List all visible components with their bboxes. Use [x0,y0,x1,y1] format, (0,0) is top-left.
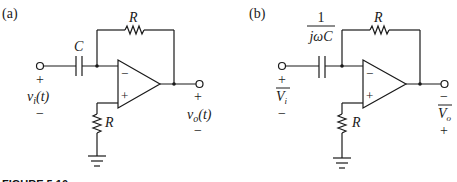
svg-text:1: 1 [318,10,325,25]
impedance-b-label: jωC [307,29,333,44]
svg-text:−: − [366,66,373,81]
svg-text:R: R [104,115,114,130]
input-phasor-b: Vi [276,89,288,106]
svg-text:−: − [36,106,44,121]
svg-text:R: R [373,10,383,25]
feedback-resistor-b [370,26,389,34]
svg-text:+: + [366,88,373,103]
circuit-figure: (a) C R − + R [0,0,457,182]
output-terminal-b [441,81,448,88]
output-terminal-a [196,81,203,88]
capacitor-a [76,56,82,76]
figure-caption: FIGURE 5.10 [2,178,68,182]
svg-text:+: + [121,88,128,103]
panel-b-label: (b) [249,6,266,22]
feedback-resistor-a-label: R [128,10,138,25]
ground-resistor-b [338,114,346,133]
svg-text:−: − [440,89,448,104]
svg-text:+: + [194,89,202,104]
impedance-b [319,56,325,78]
capacitor-a-label: C [74,39,84,54]
svg-text:+: + [36,72,44,87]
panel-b: (b) 1 jωC R − + R [249,6,452,168]
ground-resistor-a [93,114,101,133]
svg-text:−: − [278,106,286,121]
ground-icon-a [88,156,106,166]
input-terminal-a [37,63,44,70]
svg-text:+: + [440,123,448,138]
ground-icon-b [333,158,351,168]
input-terminal-b [279,63,286,70]
input-voltage-a: vi(t) [27,89,50,106]
svg-text:R: R [351,115,361,130]
output-phasor-b: Vo [438,106,452,123]
feedback-resistor-a [125,26,144,34]
svg-text:−: − [194,123,202,138]
panel-a-label: (a) [2,6,18,22]
output-voltage-a: vo(t) [187,107,212,124]
svg-text:+: + [278,72,286,87]
panel-a: (a) C R − + R [2,6,212,166]
svg-text:−: − [121,66,128,81]
